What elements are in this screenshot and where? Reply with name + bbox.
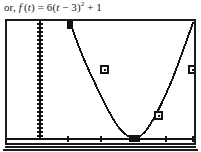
data-point-marker-open-right <box>155 112 162 119</box>
graphing-calculator-screen[interactable] <box>5 19 196 145</box>
scatter-markers <box>67 21 194 141</box>
caption-minus: − <box>59 1 71 13</box>
equation-caption: or, f (t) = 6(t − 3)2 + 1 <box>4 1 102 14</box>
frame-bottom-rule-outer <box>3 149 198 151</box>
caption-constant: 1 <box>96 1 102 13</box>
screenshot-root: or, f (t) = 6(t − 3)2 + 1 <box>0 0 201 152</box>
plot-area[interactable] <box>7 21 194 143</box>
vertex-marker <box>129 135 139 141</box>
parabola-curve <box>70 22 193 138</box>
caption-equals: = <box>35 1 47 13</box>
caption-plus: + <box>84 1 96 13</box>
y-axis-ticks <box>37 24 43 136</box>
caption-function-name: f <box>19 1 22 13</box>
caption-prefix: or, <box>4 1 19 13</box>
data-point-marker-edge <box>189 66 194 73</box>
data-point-marker-filled <box>67 21 72 28</box>
data-point-marker-open <box>101 66 108 73</box>
parabola-plot <box>7 21 194 143</box>
